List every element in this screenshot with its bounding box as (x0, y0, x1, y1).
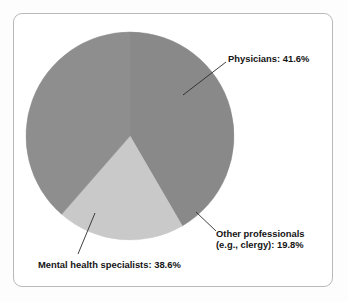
label-other-professionals-line2: (e.g., clergy): 19.8% (216, 239, 304, 250)
leader-line-other-professionals (196, 212, 216, 231)
label-mental-health-specialists: Mental health specialists: 38.6% (38, 259, 181, 270)
pie-chart-figure: Physicians: 41.6% Other professionals (e… (0, 0, 348, 302)
label-other-professionals-line1: Other professionals (216, 228, 305, 239)
label-physicians: Physicians: 41.6% (228, 53, 310, 64)
pie-chart: Physicians: 41.6% Other professionals (e… (0, 0, 348, 302)
